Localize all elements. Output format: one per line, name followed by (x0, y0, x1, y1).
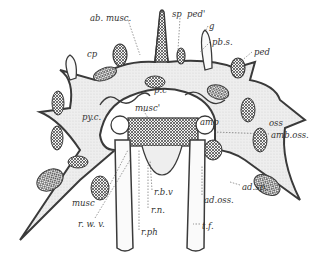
spine (155, 10, 168, 62)
label-musc-prime: musc' (135, 104, 160, 113)
label-ab-musc: ab. musc. (90, 14, 131, 23)
label-ped-prime: ped' (187, 10, 205, 19)
label-sp: sp (172, 10, 182, 19)
label-t-f: t.f. (202, 222, 214, 231)
label-r-w-v: r. w. v. (78, 220, 105, 229)
label-ad-sp: ad.sp. (242, 183, 268, 192)
label-r-b-v: r.b.v (154, 188, 173, 197)
label-py-c: py.c. (82, 113, 101, 122)
label-r-ph: r.ph (141, 228, 158, 237)
label-musc: musc (72, 199, 95, 208)
label-p-c: p.c (154, 86, 167, 95)
label-pb-s: pb.s. (212, 38, 233, 47)
label-r-n: r.n. (151, 206, 165, 215)
label-cp: cp (87, 50, 97, 59)
label-amb-oss: amb.oss. (271, 131, 309, 140)
label-ped: ped (254, 48, 270, 57)
label-g: g (209, 22, 214, 31)
label-amp: amp (200, 118, 219, 127)
label-oss: oss (269, 119, 283, 128)
label-ad-oss: ad.oss. (204, 196, 234, 205)
